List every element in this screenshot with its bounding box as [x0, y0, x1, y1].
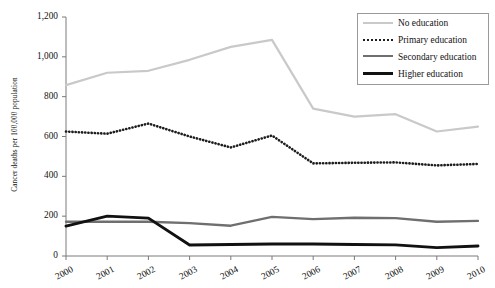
legend-item-no-education[interactable]: No education	[358, 14, 488, 31]
legend-swatch-secondary-education-icon	[363, 52, 393, 62]
legend-item-secondary-education[interactable]: Secondary education	[358, 48, 488, 65]
series-line-primary-education	[66, 124, 478, 166]
legend-swatch-higher-education-icon	[363, 69, 393, 79]
legend-swatch-primary-education-icon	[363, 35, 393, 45]
legend-swatch-no-education-icon	[363, 18, 393, 28]
cancer-deaths-line-chart: Cancer deaths per 100,000 population 020…	[0, 0, 495, 288]
legend-label-secondary-education: Secondary education	[398, 52, 476, 62]
legend-item-higher-education[interactable]: Higher education	[358, 65, 488, 82]
legend-label-higher-education: Higher education	[398, 69, 463, 79]
legend-label-primary-education: Primary education	[398, 35, 467, 45]
legend-label-no-education: No education	[398, 18, 448, 28]
legend: No education Primary education Secondary…	[357, 13, 489, 85]
legend-item-primary-education[interactable]: Primary education	[358, 31, 488, 48]
